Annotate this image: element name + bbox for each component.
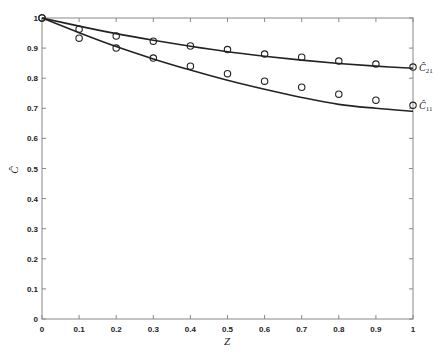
y-tick-label: 0.8: [27, 74, 39, 83]
x-tick-label: 0.5: [222, 325, 234, 334]
y-tick-label: 0.4: [27, 195, 39, 204]
data-point-marker: [261, 78, 267, 84]
data-point-marker: [76, 35, 82, 41]
x-tick-label: 1: [411, 325, 416, 334]
data-point-marker: [224, 70, 230, 76]
x-tick-label: 0.9: [370, 325, 382, 334]
data-point-marker: [336, 91, 342, 97]
axis-ticks: 00.10.20.30.40.50.60.70.80.9100.10.20.30…: [27, 14, 416, 334]
x-tick-label: 0.7: [296, 325, 308, 334]
y-tick-label: 0.3: [27, 225, 39, 234]
y-tick-label: 0.7: [27, 104, 39, 113]
x-tick-label: 0: [40, 325, 45, 334]
y-tick-label: 0.2: [27, 255, 39, 264]
y-tick-label: 0.5: [27, 165, 39, 174]
data-point-marker: [187, 63, 193, 69]
data-point-marker: [299, 84, 305, 90]
x-tick-label: 0.6: [259, 325, 271, 334]
x-tick-label: 0.3: [148, 325, 160, 334]
series-labels: Ĉ21Ĉ11: [419, 62, 433, 113]
x-tick-label: 0.1: [74, 325, 86, 334]
data-point-marker: [373, 97, 379, 103]
series-curve-21: [42, 18, 413, 68]
series-label-21: Ĉ21: [419, 62, 433, 75]
x-tick-label: 0.8: [333, 325, 345, 334]
y-tick-label: 1: [34, 14, 39, 23]
x-tick-label: 0.2: [111, 325, 123, 334]
x-axis-label: Z: [224, 335, 231, 347]
series-label-11: Ĉ11: [419, 100, 433, 113]
x-tick-label: 0.4: [185, 325, 197, 334]
y-tick-label: 0.9: [27, 44, 39, 53]
y-axis-label: Ĉ: [8, 166, 20, 174]
line-chart: 00.10.20.30.40.50.60.70.80.9100.10.20.30…: [0, 0, 445, 358]
series-curves: [42, 18, 413, 111]
plot-frame: [42, 18, 413, 319]
axes: [42, 18, 413, 319]
y-tick-label: 0: [34, 315, 39, 324]
y-tick-label: 0.6: [27, 134, 39, 143]
y-tick-label: 0.1: [27, 285, 39, 294]
